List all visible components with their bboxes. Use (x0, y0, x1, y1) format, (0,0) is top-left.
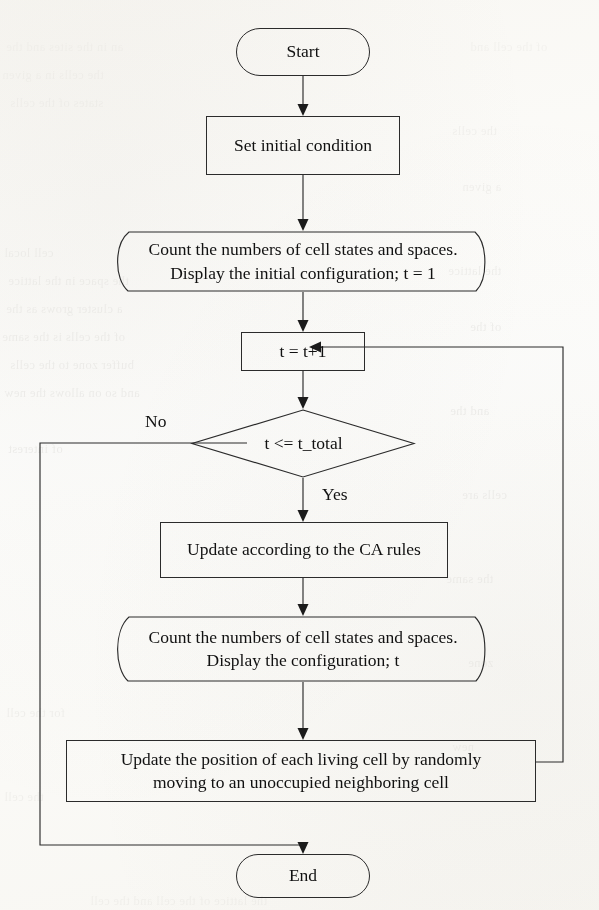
node-increment-t-label: t = t+1 (274, 340, 333, 363)
edge-label-no: No (145, 411, 166, 432)
node-count-loop-line1: Count the numbers of cell states and spa… (148, 627, 457, 647)
node-move-cells-line2: moving to an unoccupied neighboring cell (153, 772, 449, 792)
node-set-initial-condition[interactable]: Set initial condition (206, 116, 400, 175)
node-start[interactable]: Start (236, 28, 370, 76)
node-increment-t[interactable]: t = t+1 (241, 332, 365, 371)
node-end-label: End (283, 864, 323, 887)
node-move-cells[interactable]: Update the position of each living cell … (66, 740, 536, 802)
node-count-initial-line1: Count the numbers of cell states and spa… (148, 239, 457, 259)
node-update-ca-rules-label: Update according to the CA rules (181, 538, 427, 561)
node-start-label: Start (280, 40, 325, 63)
node-end[interactable]: End (236, 854, 370, 898)
flowchart-page: an in the sites and the the cells in a g… (0, 0, 599, 910)
flowchart-canvas: Start Set initial condition Count the nu… (0, 0, 599, 910)
node-decision-t-total[interactable]: t <= t_total (247, 409, 360, 478)
node-decision-t-total-label: t <= t_total (258, 432, 348, 455)
node-count-initial-line2: Display the initial configuration; t = 1 (170, 263, 436, 283)
node-count-loop-line2: Display the configuration; t (207, 650, 400, 670)
node-update-ca-rules[interactable]: Update according to the CA rules (160, 522, 448, 578)
node-move-cells-line1: Update the position of each living cell … (121, 749, 482, 769)
edge-label-yes: Yes (322, 484, 347, 505)
node-count-loop-display[interactable]: Count the numbers of cell states and spa… (107, 616, 499, 682)
node-count-initial-display[interactable]: Count the numbers of cell states and spa… (107, 231, 499, 292)
node-set-initial-condition-label: Set initial condition (228, 134, 378, 157)
